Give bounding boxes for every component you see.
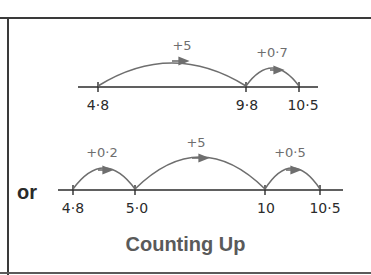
tick-label: 10·5 — [309, 200, 340, 216]
jump-arc — [73, 168, 135, 189]
jump-label: +5 — [172, 38, 191, 53]
tick-label: 10 — [257, 200, 275, 216]
jump-arc — [135, 157, 265, 189]
diagram-title: Counting Up — [0, 233, 371, 256]
tick-label: 4·8 — [62, 200, 84, 216]
number-line-method-2: or +0·2 +5 +0·5 4·8 5·0 10 10·5 — [17, 135, 343, 216]
jump-label: +0·2 — [86, 145, 118, 160]
jump-label: +0·7 — [256, 45, 288, 60]
number-line-method-1: +5 +0·7 4·8 9·8 10·5 — [78, 38, 319, 113]
jump-arc — [98, 63, 246, 86]
tick-label: 10·5 — [287, 97, 318, 113]
jump-label: +0·5 — [274, 145, 306, 160]
tick-label: 9·8 — [236, 97, 258, 113]
jump-arc — [265, 168, 320, 189]
tick-label: 4·8 — [87, 97, 109, 113]
or-connector: or — [17, 181, 37, 203]
tick-label: 5·0 — [126, 200, 148, 216]
jump-label: +5 — [186, 135, 205, 150]
